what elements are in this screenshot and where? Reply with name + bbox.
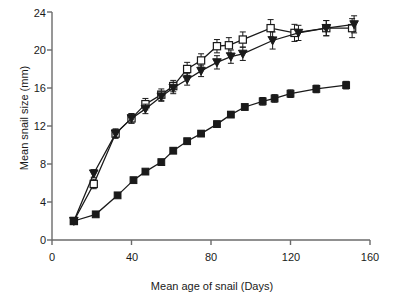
data-point-marker <box>313 86 320 93</box>
data-point-marker <box>92 211 99 218</box>
data-point-marker <box>70 218 77 225</box>
data-point-marker <box>267 25 274 32</box>
data-point-marker <box>90 180 97 187</box>
data-point-marker <box>343 82 350 89</box>
data-point-marker <box>197 67 206 75</box>
data-point-marker <box>271 95 278 102</box>
series-open-square-series <box>70 19 355 225</box>
data-point-marker <box>183 76 192 84</box>
data-point-marker <box>268 37 277 45</box>
data-point-marker <box>184 138 191 145</box>
data-point-marker <box>184 65 191 72</box>
data-point-marker <box>227 111 234 118</box>
data-point-marker <box>213 59 222 67</box>
data-point-marker <box>213 43 220 50</box>
data-point-marker <box>225 42 232 49</box>
plot-area <box>0 0 393 305</box>
series-layer <box>70 16 359 226</box>
data-point-marker <box>239 36 246 43</box>
series-filled-square-series <box>70 81 349 224</box>
data-point-marker <box>227 53 236 61</box>
data-point-marker <box>198 130 205 137</box>
data-point-marker <box>130 177 137 184</box>
data-point-marker <box>170 147 177 154</box>
data-point-marker <box>141 105 150 113</box>
data-point-marker <box>259 98 266 105</box>
snail-growth-chart: Mean snail size (mm) Mean age of snail (… <box>0 0 393 305</box>
data-point-marker <box>142 168 149 175</box>
data-point-marker <box>197 57 204 64</box>
data-point-marker <box>214 121 221 128</box>
data-point-marker <box>241 104 248 111</box>
data-point-marker <box>287 90 294 97</box>
data-point-marker <box>114 192 121 199</box>
data-point-marker <box>158 159 165 166</box>
